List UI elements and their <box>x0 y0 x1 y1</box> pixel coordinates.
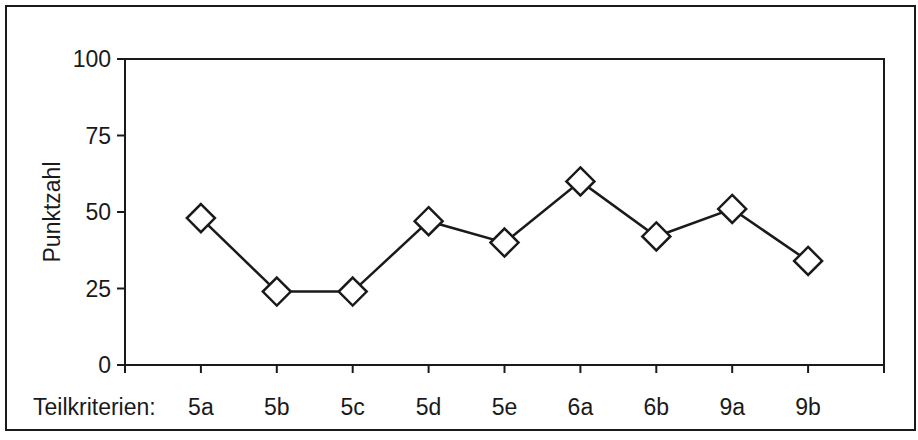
y-axis-label: Punktzahl <box>39 161 65 262</box>
plot-area <box>125 59 884 365</box>
x-tick-label: 9a <box>719 394 745 420</box>
x-tick-label: 5d <box>416 394 442 420</box>
line-chart: 0255075100 5a5b5c5d5e6a6b9a9b Punktzahl … <box>0 0 918 440</box>
x-tick-label: 6b <box>644 394 670 420</box>
x-tick-label: 5c <box>341 394 365 420</box>
x-tick-label: 6a <box>568 394 594 420</box>
y-tick-label: 50 <box>85 199 111 225</box>
data-point-diamond-icon <box>718 195 746 223</box>
data-point-diamond-icon <box>794 247 822 275</box>
x-tick-label: 5a <box>188 394 214 420</box>
chart-container: 0255075100 5a5b5c5d5e6a6b9a9b Punktzahl … <box>0 0 918 440</box>
x-axis-label: Teilkriterien: <box>33 394 156 420</box>
y-tick-label: 0 <box>98 352 111 378</box>
x-tick-label: 9b <box>795 394 821 420</box>
y-tick-label: 75 <box>85 123 111 149</box>
y-tick-label: 100 <box>73 46 111 72</box>
x-tick-label: 5e <box>492 394 518 420</box>
x-tick-label: 5b <box>264 394 290 420</box>
series-markers <box>187 167 822 305</box>
data-point-diamond-icon <box>642 222 670 250</box>
y-tick-label: 25 <box>85 276 111 302</box>
x-axis: 5a5b5c5d5e6a6b9a9b <box>125 365 884 420</box>
outer-frame <box>6 6 915 430</box>
data-point-diamond-icon <box>491 229 519 257</box>
y-axis: 0255075100 <box>73 46 125 378</box>
data-point-diamond-icon <box>566 167 594 195</box>
